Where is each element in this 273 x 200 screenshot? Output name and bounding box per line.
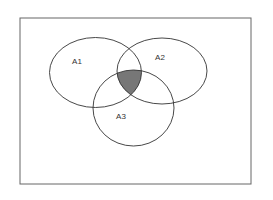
venn-diagram: A1 A2 A3 <box>0 0 273 200</box>
set-a3-label: A3 <box>116 112 126 121</box>
set-a1-label: A1 <box>72 57 82 66</box>
set-a2-label: A2 <box>155 53 165 62</box>
universe-frame <box>20 18 251 184</box>
